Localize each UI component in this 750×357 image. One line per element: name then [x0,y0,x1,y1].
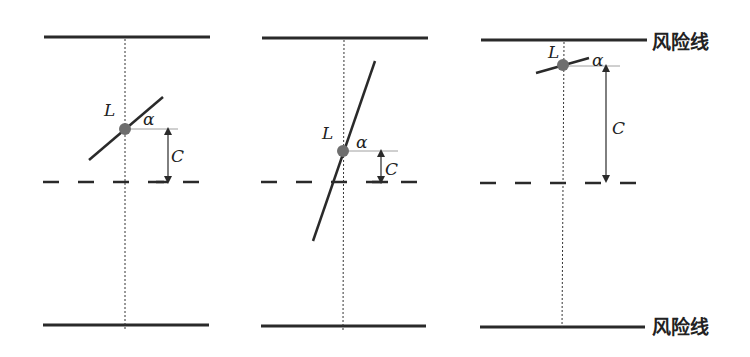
distance-label: C [171,146,184,166]
angle-label: α [356,132,368,152]
angle-label: α [592,50,604,70]
center-axis-dotted [562,42,564,330]
distance-label: C [385,159,398,179]
risk-line-diagram: L α C L α C L α C 风险线 风险线 [0,0,750,357]
rod-label: L [103,100,115,120]
angle-label: α [143,109,155,129]
rod-label: L [547,42,559,62]
center-axis-dotted [343,40,344,330]
pivot-point [119,123,131,135]
risk-line-bottom-label: 风险线 [652,316,709,338]
risk-line-top-label: 风险线 [652,31,709,53]
panel-1: L α C [43,37,210,330]
pivot-point [337,145,349,157]
rod-label: L [321,123,333,143]
distance-label: C [612,118,625,138]
panel-2: L α C [261,38,428,330]
panel-3: L α C [480,40,647,330]
